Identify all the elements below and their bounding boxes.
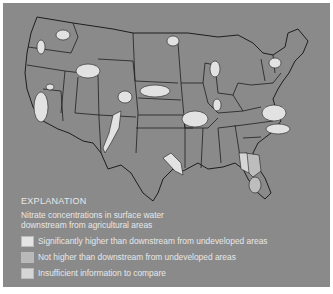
legend: EXPLANATION Nitrate concentrations in su…	[21, 196, 268, 281]
legend-subtitle-line1: Nitrate concentrations in surface water	[21, 210, 268, 220]
legend-item-significant: Significantly higher than downstream fro…	[21, 233, 268, 249]
legend-title: EXPLANATION	[21, 196, 268, 206]
legend-item-not-higher: Not higher than downstream from undevelo…	[21, 249, 268, 265]
legend-label: Insufficient information to compare	[38, 268, 166, 278]
legend-label: Significantly higher than downstream fro…	[38, 236, 268, 246]
legend-subtitle-line2: downstream from agricultural areas	[21, 220, 268, 230]
map-frame: EXPLANATION Nitrate concentrations in su…	[3, 3, 330, 287]
swatch-significant	[21, 236, 34, 247]
insufficient-areas	[239, 153, 249, 173]
swatch-not-higher	[21, 252, 34, 263]
legend-subtitle: Nitrate concentrations in surface water …	[21, 210, 268, 230]
swatch-insufficient	[21, 268, 34, 279]
legend-item-insufficient: Insufficient information to compare	[21, 265, 268, 281]
legend-label: Not higher than downstream from undevelo…	[38, 252, 236, 262]
